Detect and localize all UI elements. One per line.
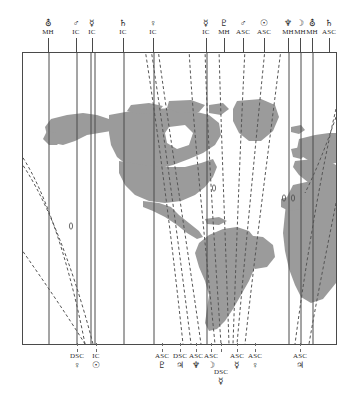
asc-curve-venus-dsc <box>23 149 85 344</box>
planet-glyph-mercury-icon: ☿ <box>88 18 95 28</box>
top-label-saturn-asc: ♄ASC <box>322 18 336 36</box>
angle-label: MH <box>306 28 318 36</box>
angle-label: ASC <box>204 352 218 360</box>
bottom-tick-jupiter <box>180 343 181 352</box>
top-label-mars-ic: ♂IC <box>72 18 79 36</box>
top-label-pluto-mh: ♇MH <box>218 18 230 36</box>
top-label-saturn-ic: ♄IC <box>119 18 127 36</box>
angle-label: DSC <box>173 352 187 360</box>
bottom-label-neptune-asc: ASC♆ <box>189 352 203 370</box>
planet-glyph-venus-icon: ♀ <box>149 18 156 28</box>
planet-glyph-mars-icon: ♂ <box>72 18 79 28</box>
asc-curve-mercury-asc <box>237 53 265 344</box>
planet-glyph-sun-icon: ☉ <box>257 18 271 28</box>
asc-curve-sun-ic <box>23 157 93 344</box>
bottom-tick-pluto <box>162 343 163 352</box>
top-label-moon-mh: ☽MH <box>294 18 306 36</box>
bottom-tick-mercury <box>237 343 238 352</box>
angle-label: ASC <box>248 352 262 360</box>
top-tick-pluto <box>224 38 225 52</box>
top-tick-mars <box>243 38 244 52</box>
angle-label: MH <box>294 28 306 36</box>
planet-glyph-neptune-icon: ♆ <box>189 360 203 370</box>
top-tick-mercury <box>206 38 207 52</box>
planet-glyph-saturn-icon: ♄ <box>119 18 127 28</box>
world-map-panel <box>22 52 337 345</box>
angle-label: MH <box>42 28 54 36</box>
angle-label: ASC <box>322 28 336 36</box>
planet-glyph-mercury-icon: ☿ <box>230 360 244 370</box>
angle-label: IC <box>88 28 95 36</box>
planet-glyph-mars-icon: ♂ <box>236 18 250 28</box>
top-label-mars-asc: ♂ASC <box>236 18 250 36</box>
bottom-label-mercury-dsc: DSC☿ <box>214 368 228 386</box>
world-map-svg <box>23 53 336 344</box>
bottom-label-pluto-asc: ASC♇ <box>155 352 169 370</box>
bottom-tick-venus <box>255 343 256 352</box>
top-tick-sun <box>264 38 265 52</box>
astrocartography-map-figure: ⛢MH♂IC☿IC♄IC♀IC☿IC♇MH♂ASC☉ASC♆MH☽MH⛢MH♄A… <box>0 0 356 399</box>
asc-curve-lowleft <box>23 243 85 344</box>
planet-glyph-mercury-icon: ☿ <box>214 376 228 386</box>
angle-label: DSC <box>214 368 228 376</box>
bottom-label-jupiter-asc: ASC♃ <box>293 352 307 370</box>
top-tick-mercury <box>92 38 93 52</box>
planet-glyph-saturn-icon: ♄ <box>322 18 336 28</box>
bottom-tick-jupiter <box>300 343 301 352</box>
bottom-label-sun-ic: IC☉ <box>92 352 100 370</box>
angle-label: DSC <box>70 352 84 360</box>
planet-glyph-jupiter-icon: ♃ <box>293 360 307 370</box>
top-tick-saturn <box>123 38 124 52</box>
angle-label: MH <box>282 28 294 36</box>
land-canada <box>109 108 221 169</box>
planet-glyph-neptune-icon: ♆ <box>282 18 294 28</box>
top-tick-uranus <box>312 38 313 52</box>
planet-glyph-mercury-icon: ☿ <box>202 18 209 28</box>
bottom-tick-moon <box>211 343 212 352</box>
land-iceland <box>291 125 305 134</box>
angle-label: ASC <box>236 28 250 36</box>
top-label-mercury-ic: ☿IC <box>202 18 209 36</box>
bottom-label-band: DSC♀IC☉ASC♇DSC♃ASC♆ASC☽DSC☿ASC☿ASC♀ASC♃ <box>0 352 356 384</box>
angle-label: IC <box>92 352 100 360</box>
asc-curve-venus-asc <box>245 53 281 344</box>
angle-label: IC <box>149 28 156 36</box>
location-marker-atlantic <box>212 185 215 191</box>
planet-glyph-moon-icon: ☽ <box>294 18 306 28</box>
top-tick-uranus <box>48 38 49 52</box>
angle-label: ASC <box>155 352 169 360</box>
angle-label: IC <box>119 28 127 36</box>
top-tick-venus <box>153 38 154 52</box>
angle-label: ASC <box>257 28 271 36</box>
top-tick-moon <box>300 38 301 52</box>
planet-glyph-venus-icon: ♀ <box>70 360 84 370</box>
planet-glyph-uranus-icon: ⛢ <box>306 18 318 28</box>
top-label-uranus-mh: ⛢MH <box>306 18 318 36</box>
angle-label: ASC <box>293 352 307 360</box>
top-label-neptune-mh: ♆MH <box>282 18 294 36</box>
location-marker-pacific <box>69 223 72 229</box>
angle-label: IC <box>72 28 79 36</box>
planet-glyph-jupiter-icon: ♃ <box>173 360 187 370</box>
top-tick-neptune <box>288 38 289 52</box>
top-tick-mars <box>76 38 77 52</box>
bottom-tick-neptune <box>196 343 197 352</box>
planet-glyph-uranus-icon: ⛢ <box>42 18 54 28</box>
bottom-label-mercury-asc: ASC☿ <box>230 352 244 370</box>
angle-label: ASC <box>230 352 244 360</box>
bottom-label-venus-asc: ASC♀ <box>248 352 262 370</box>
top-label-mercury-ic: ☿IC <box>88 18 95 36</box>
bottom-label-venus-dsc: DSC♀ <box>70 352 84 370</box>
top-label-venus-ic: ♀IC <box>149 18 156 36</box>
bottom-tick-venus <box>77 343 78 352</box>
top-label-band: ⛢MH♂IC☿IC♄IC♀IC☿IC♇MH♂ASC☉ASC♆MH☽MH⛢MH♄A… <box>0 18 356 50</box>
bottom-tick-sun <box>96 343 97 352</box>
angle-label: MH <box>218 28 230 36</box>
angle-label: ASC <box>189 352 203 360</box>
top-label-uranus-mh: ⛢MH <box>42 18 54 36</box>
land-caribbean <box>205 217 227 225</box>
landmass-group <box>43 99 336 331</box>
angle-label: IC <box>202 28 209 36</box>
bottom-label-jupiter-dsc: DSC♃ <box>173 352 187 370</box>
planet-glyph-venus-icon: ♀ <box>248 360 262 370</box>
